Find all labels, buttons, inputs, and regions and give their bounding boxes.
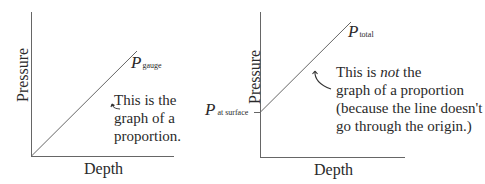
right-x-axis-label: Depth (314, 161, 353, 179)
right-line-label: Ptotal (348, 22, 374, 42)
right-y-axis-label: Pressure (246, 50, 264, 104)
right-intercept-label: Pat surface (205, 100, 248, 120)
right-annotation: This is not the graph of a proportion (b… (336, 63, 482, 135)
left-annotation: This is the graph of a proportion. (114, 91, 181, 145)
left-y-axis-label: Pressure (14, 48, 32, 102)
right-annotation-arrow-icon (313, 71, 332, 89)
left-line-label: Pgauge (131, 53, 162, 73)
left-x-axis-label: Depth (84, 160, 123, 178)
